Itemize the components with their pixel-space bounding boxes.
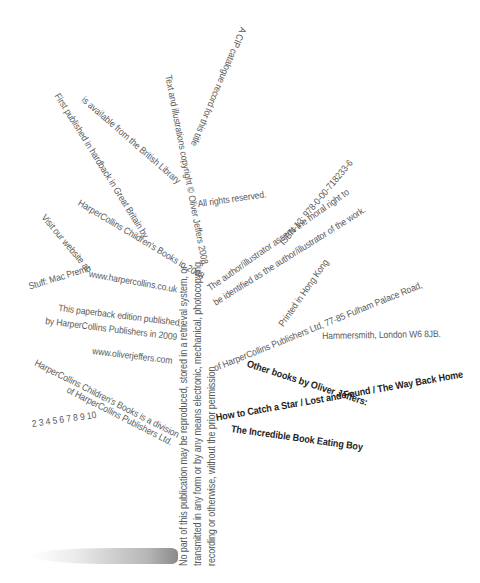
moral-right-2: be identified as the author/illustrator … <box>211 204 367 307</box>
rights-line: All rights reserved. <box>197 188 267 208</box>
division-line-1: HarperCollins Children's Books is a divi… <box>33 357 181 440</box>
trunk-line-3: recording or otherwise, without the prio… <box>206 367 217 566</box>
cip-line-2: is available from the British Library <box>80 94 183 186</box>
harpercollins-website: www.harpercollins.co.uk <box>88 268 178 294</box>
address-line-1: of HarperCollins Publishers Ltd, 77-85 F… <box>212 279 424 373</box>
other-books-list-1: How to Catch a Star / Lost and Found / T… <box>215 368 464 422</box>
ground-scribble <box>30 548 178 564</box>
stuff-credit: Stuff: Mac Premo <box>27 262 92 291</box>
other-books-list-2: The Incredible Book Eating Boy <box>230 423 363 452</box>
oliverjeffers-website: www.oliverjeffers.com <box>92 345 173 366</box>
cip-line-1: A CIP catalogue record for this title <box>189 26 249 148</box>
trunk-line-2: transmitted in any form or by any means … <box>192 260 203 566</box>
print-number-line: 2 3 4 5 6 7 8 9 10 <box>31 409 97 429</box>
trunk-line-1: No part of this publication may be repro… <box>178 266 189 566</box>
address-line-2: Hammersmith, London W6 8JB. <box>322 328 441 341</box>
